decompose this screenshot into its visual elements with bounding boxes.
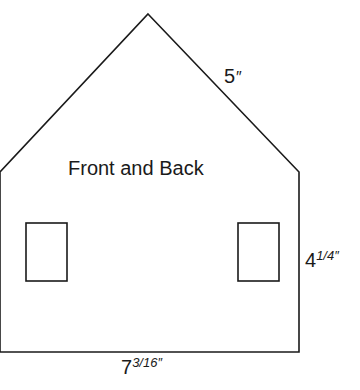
base-width-dimension: 73/16″: [121, 356, 162, 377]
wall-height-whole: 4: [305, 249, 316, 271]
base-width-fraction: 3/16: [132, 355, 157, 370]
wall-height-unit: ″: [334, 248, 339, 263]
pattern-title: Front and Back: [68, 158, 204, 178]
roof-edge-whole: 5: [224, 65, 235, 87]
house-pattern-diagram: [0, 0, 360, 390]
roof-edge-unit: ″: [235, 69, 241, 86]
house-outline: [0, 14, 299, 352]
roof-edge-dimension: 5″: [224, 66, 241, 86]
base-width-unit: ″: [157, 355, 162, 370]
wall-height-fraction: 1/4: [316, 248, 334, 263]
base-width-whole: 7: [121, 356, 132, 378]
wall-height-dimension: 41/4″: [305, 249, 339, 270]
